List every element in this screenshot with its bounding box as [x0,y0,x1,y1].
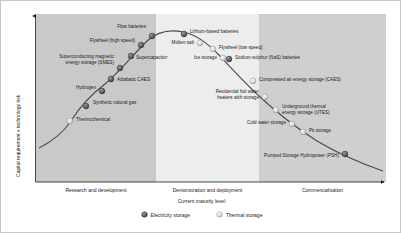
legend-item-electricity-storage[interactable]: Electricity storage [141,211,190,218]
data-point-label: Hydrogen [76,85,96,90]
data-point-label: Superconducting magnetic energy storage … [59,54,114,65]
y-axis-title: Capital requirement x technology risk [15,95,21,177]
data-point-label: Compressed air energy storage (CAES) [259,77,341,82]
data-point-marker[interactable] [262,94,268,100]
legend-item-thermal-storage[interactable]: Thermal storage [216,211,262,218]
electricity-storage-marker-icon [141,211,148,218]
data-point-marker[interactable] [117,65,123,71]
data-point-label: Cold water storage [247,120,286,125]
x-axis-title: Current maturity level [1,198,401,204]
data-point-label: Adiabatic CAES [117,77,150,82]
data-point-marker[interactable] [273,107,279,113]
data-point-marker[interactable] [289,121,295,127]
data-point-marker[interactable] [220,55,226,61]
data-point-marker[interactable] [138,42,144,48]
data-point-marker[interactable] [342,151,348,157]
data-point-label: Synthetic natural gas [93,100,136,105]
phase-label-1: Demonstration and deployment [156,187,259,193]
thermal-storage-marker-icon [216,211,223,218]
data-point-marker[interactable] [226,56,232,62]
data-point-marker[interactable] [67,118,73,124]
chart-legend: Electricity storageThermal storage [1,211,401,218]
data-point-marker[interactable] [108,76,114,82]
chart-figure: Synthetic natural gasHydrogenAdiabatic C… [0,0,401,233]
legend-label: Thermal storage [226,212,262,218]
data-point-label: Pit storage [309,128,331,133]
data-point-marker[interactable] [128,53,134,59]
data-point-label: Molten salt [172,40,194,45]
data-point-marker[interactable] [181,31,187,37]
data-point-marker[interactable] [83,103,89,109]
data-point-marker[interactable] [250,78,256,84]
data-point-label: Ice storage [194,55,217,60]
data-point-label: Flywheel (low speed) [219,45,263,50]
data-point-marker[interactable] [300,129,306,135]
data-point-label: Flow batteries [117,24,146,29]
data-point-label: Underground thermal energy storage (UTES… [282,104,330,115]
phase-label-2: Commercialisation [259,187,386,193]
data-point-marker[interactable] [210,46,216,52]
data-point-label: Residential hot water heaters with stora… [216,89,259,100]
data-point-label: Lithium-based batteries [190,29,238,34]
data-point-marker[interactable] [197,40,203,46]
data-point-label: Supercapacitor [136,55,167,60]
data-point-label: Thermochemical [76,117,110,122]
data-point-marker[interactable] [99,88,105,94]
data-point-label: Sodium-sulphur (NaS) batteries [235,55,300,60]
phase-label-0: Research and development [36,187,156,193]
data-point-marker[interactable] [149,33,155,39]
legend-label: Electricity storage [151,212,190,218]
data-point-label: Flywheel (high speed) [90,38,135,43]
data-point-label: Pumped Storage Hydropower (PSH) [264,153,339,158]
